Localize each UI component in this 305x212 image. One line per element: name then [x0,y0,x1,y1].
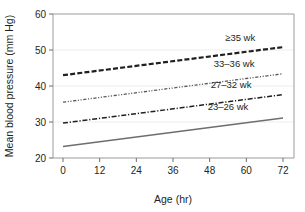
x-axis-tick-labels: 0122436486072 [60,165,289,176]
series-label: 33–36 wk [214,58,255,69]
y-axis-tick-labels: 2030405060 [35,9,47,164]
y-tick-label: 60 [35,9,47,20]
y-tick-label: 30 [35,117,47,128]
y-axis-title: Mean blood pressure (mm Hg) [3,15,15,157]
x-tick-label: 48 [204,165,216,176]
y-tick-label: 50 [35,45,47,56]
line-chart: 2030405060 0122436486072 ≥35 wk33–36 wk2… [0,0,305,212]
series-label: 23–26 wk [208,101,249,112]
x-tick-label: 24 [131,165,143,176]
y-tick-label: 40 [35,81,47,92]
series-label: ≥35 wk [225,32,255,43]
chart-container: 2030405060 0122436486072 ≥35 wk33–36 wk2… [0,0,305,212]
x-tick-label: 0 [60,165,66,176]
x-tick-label: 60 [241,165,253,176]
x-axis-ticks [63,158,283,162]
y-axis-ticks [49,14,53,158]
x-axis-title: Age (hr) [154,193,192,205]
x-tick-label: 72 [277,165,289,176]
x-tick-label: 12 [94,165,106,176]
series-label: 27–32 wk [211,79,252,90]
y-tick-label: 20 [35,153,47,164]
x-tick-label: 36 [167,165,179,176]
